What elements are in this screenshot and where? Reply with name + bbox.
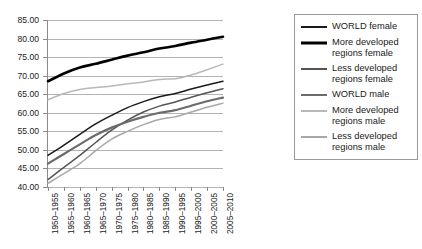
x-tick-mark (48, 187, 49, 191)
legend-item-label: Less developed regions male (332, 131, 412, 153)
x-tick-label: 1995–2000 (195, 193, 203, 234)
x-tick-label: 1985–1990 (163, 193, 171, 234)
x-tick-mark (112, 187, 113, 191)
y-tick-label: 40.00 (17, 183, 39, 192)
legend-item[interactable]: Less developed regions male (301, 131, 412, 153)
chart-legend: WORLD femaleMore developed regions femal… (294, 14, 418, 160)
plot-area (48, 20, 223, 187)
legend-line-swatch (301, 21, 327, 33)
series-line (48, 98, 223, 164)
series-line (48, 37, 223, 82)
y-tick-label: 80.00 (17, 34, 39, 43)
x-tick-label: 1955–1960 (68, 193, 76, 234)
x-tick-label: 1990–1995 (179, 193, 187, 234)
x-tick-label: 1975–1980 (132, 193, 140, 234)
x-tick-mark (175, 187, 176, 191)
legend-item[interactable]: WORLD male (301, 89, 412, 101)
series-line (48, 89, 223, 180)
x-tick-label: 2000–2005 (211, 193, 219, 234)
x-tick-mark (128, 187, 129, 191)
y-tick-label: 85.00 (17, 16, 39, 25)
x-tick-label: 1970–1975 (116, 193, 124, 234)
legend-item[interactable]: WORLD female (301, 21, 412, 33)
x-tick-mark (223, 187, 224, 191)
x-tick-label: 1965–1970 (100, 193, 108, 234)
y-tick-label: 75.00 (17, 53, 39, 62)
legend-line-swatch (301, 37, 327, 49)
x-tick-label: 1960–1965 (84, 193, 92, 234)
y-axis: 85.0080.0075.0070.0065.0060.0055.0050.00… (0, 0, 48, 249)
legend-line-swatch (301, 131, 327, 143)
y-tick-label: 65.00 (17, 90, 39, 99)
series-lines (48, 20, 223, 187)
x-tick-label: 1950–1955 (52, 193, 60, 234)
x-axis-ticks (48, 187, 223, 192)
x-tick-mark (143, 187, 144, 191)
x-tick-mark (159, 187, 160, 191)
legend-line-swatch (301, 89, 327, 101)
x-tick-mark (96, 187, 97, 191)
legend-item[interactable]: More developed regions male (301, 105, 412, 127)
y-tick-label: 60.00 (17, 108, 39, 117)
legend-item-label: WORLD female (332, 21, 397, 32)
y-tick-label: 45.00 (17, 164, 39, 173)
y-tick-label: 55.00 (17, 127, 39, 136)
y-tick-label: 50.00 (17, 146, 39, 155)
legend-item-label: More developed regions female (332, 37, 412, 59)
x-tick-mark (191, 187, 192, 191)
legend-item-label: WORLD male (332, 89, 389, 100)
x-tick-label: 2005–2010 (227, 193, 235, 234)
legend-item[interactable]: More developed regions female (301, 37, 412, 59)
x-tick-mark (80, 187, 81, 191)
y-tick-label: 70.00 (17, 71, 39, 80)
legend-line-swatch (301, 63, 327, 75)
x-axis-labels: 1950–19551955–19601960–19651965–19701970… (48, 193, 223, 249)
life-expectancy-line-chart: 85.0080.0075.0070.0065.0060.0055.0050.00… (0, 0, 422, 249)
legend-line-swatch (301, 105, 327, 117)
legend-item-label: More developed regions male (332, 105, 412, 127)
legend-item[interactable]: Less developed regions female (301, 63, 412, 85)
x-tick-mark (64, 187, 65, 191)
x-tick-mark (207, 187, 208, 191)
legend-item-label: Less developed regions female (332, 63, 412, 85)
x-tick-label: 1980–1985 (147, 193, 155, 234)
